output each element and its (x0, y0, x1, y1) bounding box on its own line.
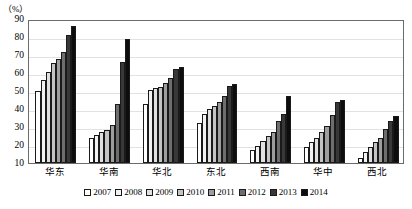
plot-area (28, 20, 404, 164)
y-axis-tick-label: 90 (15, 15, 25, 25)
bar (232, 84, 237, 163)
bar (125, 39, 130, 163)
legend-item[interactable]: 2007 (84, 188, 111, 197)
x-axis: 华东华南华北东北西南华中西北 (0, 164, 412, 182)
legend-label: 2009 (155, 188, 173, 197)
x-axis-tick-label: 西北 (367, 166, 387, 178)
bar-group (190, 21, 244, 163)
y-axis-tick-label: 20 (15, 141, 25, 151)
bar-group (136, 21, 190, 163)
legend-label: 2010 (186, 188, 204, 197)
legend-label: 2013 (279, 188, 297, 197)
y-axis-tick-label: 50 (15, 87, 25, 97)
bar-chart: （%） 102030405060708090 华东华南华北东北西南华中西北 20… (0, 0, 412, 209)
legend-swatch-icon (239, 189, 246, 196)
x-axis-tick-label: 华东 (45, 166, 65, 178)
legend-swatch-icon (115, 189, 122, 196)
x-axis-tick-label: 华南 (99, 166, 119, 178)
legend-swatch-icon (301, 189, 308, 196)
bar-group (83, 21, 137, 163)
bar-group (298, 21, 352, 163)
legend-label: 2012 (248, 188, 266, 197)
y-axis-tick-label: 70 (15, 51, 25, 61)
bars-layer (29, 21, 403, 163)
legend-item[interactable]: 2014 (301, 188, 328, 197)
x-axis-tick-label: 西南 (260, 166, 280, 178)
legend-swatch-icon (84, 189, 91, 196)
bar (71, 26, 76, 163)
bar (179, 67, 184, 163)
legend-item[interactable]: 2008 (115, 188, 142, 197)
legend-item[interactable]: 2013 (270, 188, 297, 197)
legend-swatch-icon (177, 189, 184, 196)
legend-item[interactable]: 2009 (146, 188, 173, 197)
legend-swatch-icon (208, 189, 215, 196)
legend-item[interactable]: 2011 (208, 188, 235, 197)
legend-item[interactable]: 2010 (177, 188, 204, 197)
y-axis-tick-label: 80 (15, 33, 25, 43)
legend-label: 2014 (310, 188, 328, 197)
legend-item[interactable]: 2012 (239, 188, 266, 197)
legend-label: 2011 (217, 188, 235, 197)
x-axis-tick-label: 东北 (206, 166, 226, 178)
y-axis-tick-label: 30 (15, 123, 25, 133)
legend-swatch-icon (270, 189, 277, 196)
chart-legend: 20072008200920102011201220132014 (0, 188, 412, 197)
legend-swatch-icon (146, 189, 153, 196)
bar (393, 116, 398, 163)
bar-group (244, 21, 298, 163)
legend-label: 2008 (124, 188, 142, 197)
bar (286, 96, 291, 163)
legend-label: 2007 (93, 188, 111, 197)
y-axis-tick-label: 60 (15, 69, 25, 79)
x-axis-tick-label: 华北 (152, 166, 172, 178)
bar-group (351, 21, 405, 163)
bar (340, 100, 345, 163)
bar-group (29, 21, 83, 163)
x-axis-tick-label: 华中 (313, 166, 333, 178)
y-axis-tick-label: 40 (15, 105, 25, 115)
